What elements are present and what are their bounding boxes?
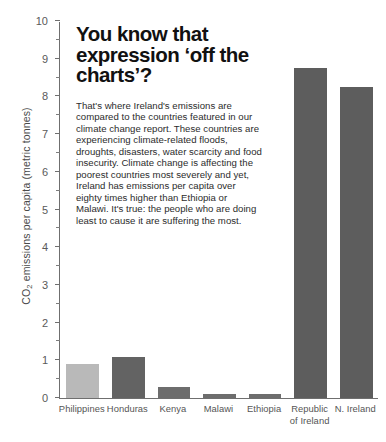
y-tick-label: 9 <box>42 53 48 65</box>
y-axis-title: CO2 emissions per capita (metric tonnes) <box>20 76 32 336</box>
y-tick-label: 10 <box>36 15 48 27</box>
bar <box>249 394 282 398</box>
y-tick-label: 8 <box>42 90 48 102</box>
y-tick-label: 6 <box>42 166 48 178</box>
bar <box>203 394 236 398</box>
body-paragraph: That's where Ireland's emissions are com… <box>76 100 262 227</box>
y-axis-title-rest: emissions per capita (metric tonnes) <box>20 107 32 284</box>
headline: You know that expression ‘off the charts… <box>76 24 262 86</box>
y-axis-title-subscript: 2 <box>25 284 34 288</box>
y-tick-label: 3 <box>42 279 48 291</box>
y-tick-label: 2 <box>42 317 48 329</box>
bar <box>294 68 327 398</box>
bar-chart-figure: CO2 emissions per capita (metric tonnes)… <box>0 0 386 442</box>
bar <box>158 387 191 398</box>
y-tick-label: 4 <box>42 241 48 253</box>
editorial-overlay: You know that expression ‘off the charts… <box>76 24 262 226</box>
y-tick-label: 0 <box>42 392 48 404</box>
y-tick-major: 10 <box>55 20 60 21</box>
bar <box>340 87 373 398</box>
x-tick-label-line: of Ireland <box>279 415 341 427</box>
x-tick-label: N. Ireland <box>324 403 386 415</box>
x-tick-label-line: N. Ireland <box>324 403 386 415</box>
bar <box>66 364 99 398</box>
x-axis-labels: PhilippinesHondurasKenyaMalawiEthiopiaRe… <box>59 403 378 441</box>
bar <box>112 357 145 398</box>
y-axis-title-text: CO <box>20 289 32 305</box>
y-tick-label: 1 <box>42 354 48 366</box>
y-tick-label: 5 <box>42 204 48 216</box>
body-copy: That's where Ireland's emissions are com… <box>76 100 262 227</box>
y-tick-label: 7 <box>42 128 48 140</box>
